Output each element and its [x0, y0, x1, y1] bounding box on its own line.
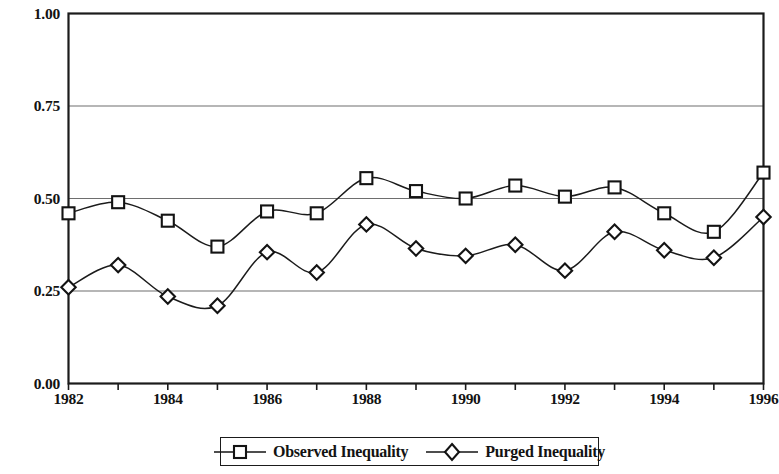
square-marker-icon	[261, 205, 273, 217]
square-marker-icon	[410, 185, 422, 197]
square-marker-icon	[559, 191, 571, 203]
diamond-marker-icon	[310, 265, 324, 279]
legend-entry: Purged Inequality	[424, 442, 607, 462]
legend-entry: Observed Inequality	[212, 442, 410, 462]
diamond-marker-icon	[61, 280, 75, 294]
diamond-marker-icon	[210, 299, 224, 313]
square-marker-icon	[360, 172, 372, 184]
diamond-marker-icon	[111, 258, 125, 272]
square-marker-icon	[658, 207, 670, 219]
x-axis-tick-label: 1992	[530, 391, 600, 407]
square-marker-icon	[311, 207, 323, 219]
x-axis-tick-label: 1990	[431, 391, 501, 407]
legend-label: Observed Inequality	[270, 443, 410, 461]
x-axis-tick-label: 1982	[34, 391, 104, 407]
x-axis-tick-label: 1984	[133, 391, 203, 407]
square-marker-icon	[112, 196, 124, 208]
square-marker-icon	[63, 207, 75, 219]
diamond-marker-icon	[707, 251, 721, 265]
x-axis-tick-label: 1986	[232, 391, 302, 407]
diamond-marker-icon	[424, 442, 480, 462]
square-marker-icon	[212, 442, 268, 462]
square-marker-icon	[509, 180, 521, 192]
chart-legend: Observed InequalityPurged Inequality	[220, 437, 599, 466]
x-axis-tick-label: 1988	[331, 391, 401, 407]
x-axis-tick-label: 1994	[629, 391, 699, 407]
diamond-marker-icon	[657, 243, 671, 257]
diamond-marker-icon	[359, 217, 373, 231]
square-marker-icon	[211, 241, 223, 253]
square-marker-icon	[460, 193, 472, 205]
diamond-marker-icon	[409, 241, 423, 255]
square-marker-icon	[162, 215, 174, 227]
diamond-marker-icon	[558, 263, 572, 277]
diamond-marker-icon	[607, 225, 621, 239]
square-marker-icon	[758, 167, 770, 179]
x-axis-tick-labels: 19821984198619881990199219941996	[0, 391, 779, 417]
diamond-marker-icon	[458, 249, 472, 263]
diamond-marker-icon	[260, 245, 274, 259]
line-chart: 1.000.750.500.250.00 1982198419861988199…	[0, 0, 779, 474]
legend-label: Purged Inequality	[482, 443, 607, 461]
x-axis-tick-label: 1996	[729, 391, 779, 407]
square-marker-icon	[708, 226, 720, 238]
diamond-marker-icon	[508, 238, 522, 252]
square-marker-icon	[609, 181, 621, 193]
